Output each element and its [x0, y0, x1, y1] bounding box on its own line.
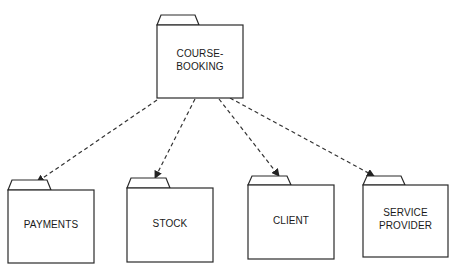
package-tab — [157, 15, 199, 25]
package-tab — [127, 178, 170, 188]
package-tab — [363, 176, 405, 185]
dependency-arrow-payments — [37, 100, 157, 182]
package-label-client: CLIENT — [248, 214, 334, 227]
dependency-arrow-client — [219, 99, 279, 176]
package-label-service-provider: SERVICE PROVIDER — [363, 206, 448, 232]
package-label-stock: STOCK — [127, 217, 213, 230]
package-tab — [248, 176, 291, 185]
dependency-arrows — [37, 98, 374, 182]
dependency-arrow-stock — [155, 99, 195, 178]
dependency-arrow-service-provider — [230, 98, 374, 176]
package-label-course-booking: COURSE- BOOKING — [157, 47, 243, 73]
package-label-payments: PAYMENTS — [8, 218, 94, 231]
package-tab — [8, 180, 51, 190]
